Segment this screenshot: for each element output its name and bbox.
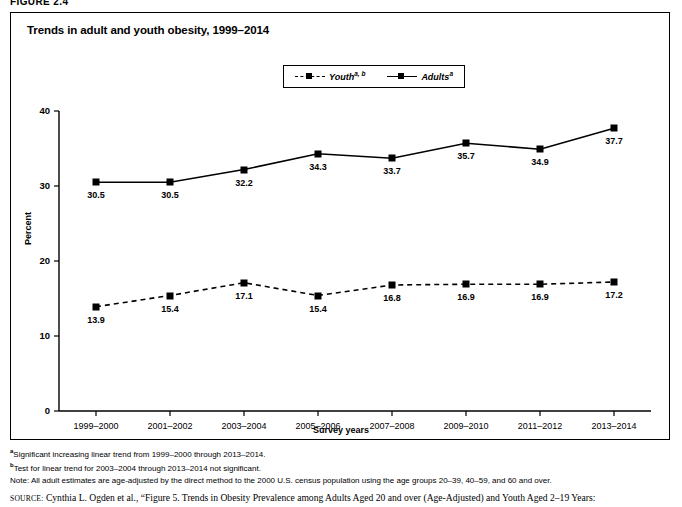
data-point-marker (611, 125, 618, 132)
data-point-label: 17.2 (605, 290, 623, 300)
data-point-label: 30.5 (161, 190, 179, 200)
x-tick-label: 2013–2014 (591, 421, 636, 431)
data-point-marker (389, 155, 396, 162)
data-point-label: 33.7 (383, 166, 401, 176)
y-tick-label: 30 (26, 180, 50, 191)
data-point-label: 30.5 (87, 190, 105, 200)
data-point-marker (93, 303, 100, 310)
data-point-marker (167, 292, 174, 299)
figure-box: Trends in adult and youth obesity, 1999–… (10, 12, 670, 440)
data-point-label: 17.1 (235, 291, 253, 301)
y-tick-label: 10 (26, 330, 50, 341)
x-tick-label: 1999–2000 (73, 421, 118, 431)
data-point-marker (463, 140, 470, 147)
data-point-marker (463, 281, 470, 288)
data-point-marker (167, 179, 174, 186)
data-point-marker (537, 146, 544, 153)
plot-area: Percent Survey years 0102030401999–20002… (11, 13, 671, 441)
data-point-label: 13.9 (87, 315, 105, 325)
data-point-marker (315, 292, 322, 299)
x-tick-label: 2005–2006 (295, 421, 340, 431)
data-point-label: 15.4 (309, 304, 327, 314)
y-tick-label: 0 (26, 405, 50, 416)
data-point-label: 34.9 (531, 157, 549, 167)
figure-label: FIGURE 2.4 (10, 0, 68, 7)
data-point-marker (241, 166, 248, 173)
y-tick-label: 40 (26, 105, 50, 116)
y-tick-label: 20 (26, 255, 50, 266)
chart-label-overlay: 0102030401999–20002001–20022003–20042005… (11, 13, 671, 441)
data-point-label: 32.2 (235, 178, 253, 188)
data-point-label: 16.9 (457, 292, 475, 302)
x-tick-label: 2003–2004 (221, 421, 266, 431)
footnote-note: Note: All adult estimates are age-adjust… (10, 475, 672, 487)
footnote-a-text: Significant increasing linear trend from… (13, 450, 265, 459)
data-point-label: 34.3 (309, 162, 327, 172)
source-prefix: SOURCE: (10, 494, 43, 503)
x-tick-label: 2001–2002 (147, 421, 192, 431)
footnote-note-text: Note: All adult estimates are age-adjust… (10, 476, 552, 485)
x-tick-label: 2011–2012 (518, 421, 562, 431)
footnote-b: bTest for linear trend for 2003–2004 thr… (10, 460, 672, 474)
data-point-label: 15.4 (161, 304, 179, 314)
source-line: SOURCE: Cynthia L. Ogden et al., “Figure… (10, 492, 678, 503)
data-point-label: 16.8 (383, 293, 401, 303)
footnotes: aSignificant increasing linear trend fro… (10, 446, 672, 486)
data-point-marker (537, 281, 544, 288)
footnote-a: aSignificant increasing linear trend fro… (10, 446, 672, 460)
data-point-marker (611, 279, 618, 286)
data-point-label: 35.7 (457, 151, 475, 161)
data-point-label: 16.9 (531, 292, 549, 302)
data-point-marker (93, 179, 100, 186)
data-point-marker (315, 150, 322, 157)
x-tick-label: 2009–2010 (443, 421, 488, 431)
footnote-b-text: Test for linear trend for 2003–2004 thro… (14, 464, 261, 473)
x-tick-label: 2007–2008 (369, 421, 414, 431)
data-point-marker (389, 282, 396, 289)
source-text: Cynthia L. Ogden et al., “Figure 5. Tren… (43, 492, 595, 503)
data-point-marker (241, 279, 248, 286)
data-point-label: 37.7 (605, 136, 623, 146)
